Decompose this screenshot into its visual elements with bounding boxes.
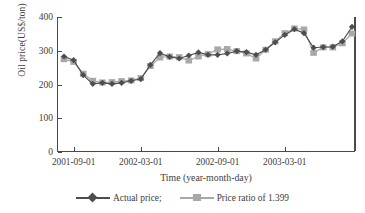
chart-figure: Oil price(US$/ton) 0100200300400 2001-09… — [0, 0, 365, 213]
square-marker-icon — [193, 194, 201, 201]
x-tick-label-3: 2003-03-01 — [263, 157, 306, 167]
diamond-marker-icon — [88, 193, 98, 203]
x-tick-label-2: 2002-09-01 — [196, 157, 239, 167]
x-tick-label-0: 2001-09-01 — [52, 157, 95, 167]
x-axis-title: Time (year-month-day) — [57, 172, 355, 183]
diamond-marker-icon — [215, 52, 221, 58]
legend-key-price-ratio — [180, 192, 214, 203]
diamond-marker-icon — [349, 24, 355, 30]
legend-key-actual-price — [76, 192, 110, 203]
y-axis-title: Oil price(US$/ton) — [17, 0, 27, 106]
plot-area: 0100200300400 2001-09-012002-03-012002-0… — [57, 17, 355, 152]
square-marker-icon — [214, 46, 221, 52]
y-tick-label-400: 400 — [39, 12, 53, 22]
series-layer — [58, 17, 356, 152]
y-tick-label-200: 200 — [39, 80, 53, 90]
legend-label-actual-price: Actual price; — [113, 193, 162, 203]
chart-legend: Actual price; Price ratio of 1.399 — [0, 192, 365, 203]
legend-label-price-ratio: Price ratio of 1.399 — [217, 193, 289, 203]
y-tick-label-0: 0 — [48, 147, 53, 157]
legend-item-price-ratio: Price ratio of 1.399 — [180, 192, 289, 203]
y-tick-label-300: 300 — [39, 46, 53, 56]
y-tick-0 — [58, 152, 62, 153]
y-tick-label-100: 100 — [39, 113, 53, 123]
legend-item-actual-price: Actual price; — [76, 192, 162, 203]
square-marker-icon — [349, 31, 356, 37]
x-tick-label-1: 2002-03-01 — [119, 157, 162, 167]
